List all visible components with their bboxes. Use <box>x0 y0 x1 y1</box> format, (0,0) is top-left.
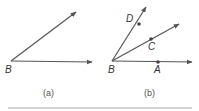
angle-diagram: B (a) D C A B (b) <box>0 0 199 111</box>
ray-horizontal <box>11 61 92 62</box>
ray-upper <box>11 12 76 61</box>
point-label-a: A <box>153 64 161 75</box>
caption-a: (a) <box>43 88 54 98</box>
vertex-label-b: B <box>5 64 12 75</box>
caption-b: (b) <box>144 88 155 98</box>
ray-bc <box>112 24 179 61</box>
figure-b: D C A B (b) <box>100 7 192 108</box>
point-label-c: C <box>148 41 156 52</box>
point-d <box>137 22 141 26</box>
point-label-d: D <box>126 13 133 24</box>
vertex-label-b: B <box>108 64 115 75</box>
ray-ba <box>112 61 192 62</box>
figure-a: B (a) <box>5 12 100 108</box>
